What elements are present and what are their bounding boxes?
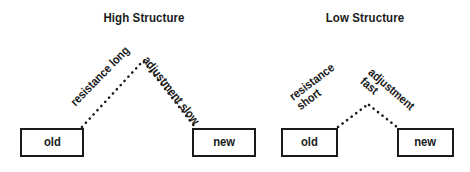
node-label-low-old: old [301, 136, 318, 149]
node-box-high-old: old [20, 128, 84, 157]
node-label-high-old: old [44, 136, 61, 149]
panel-title-high-structure: High Structure [70, 11, 217, 25]
node-box-low-old: old [281, 128, 338, 157]
node-box-low-new: new [397, 128, 454, 157]
panel-title-low-structure: Low Structure [291, 11, 438, 25]
node-box-high-new: new [192, 128, 256, 157]
node-label-low-new: new [415, 136, 437, 149]
transition-structure-diagram: High Structure Low Structure old new old… [0, 0, 470, 172]
edge-line-low-resistance [338, 105, 367, 127]
node-label-high-new: new [213, 136, 235, 149]
